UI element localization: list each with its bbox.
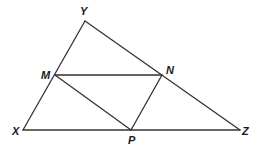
label-z: Z bbox=[241, 125, 250, 137]
label-p: P bbox=[128, 134, 136, 146]
triangle-diagram: Y M N X P Z bbox=[0, 0, 260, 149]
label-y: Y bbox=[80, 5, 89, 17]
label-n: N bbox=[166, 64, 175, 76]
segment-mp bbox=[55, 75, 131, 130]
segment-np bbox=[131, 75, 162, 130]
label-x: X bbox=[11, 125, 20, 137]
segments bbox=[23, 21, 240, 130]
label-m: M bbox=[41, 69, 51, 81]
